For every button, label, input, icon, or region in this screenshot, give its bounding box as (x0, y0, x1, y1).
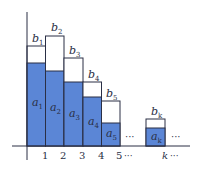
x-tick-ellipsis-1: ··· (124, 151, 133, 161)
x-tick-4: 4 (98, 150, 104, 161)
bar-3 (64, 58, 83, 146)
x-tick-3: 3 (79, 150, 85, 161)
x-tick-5: 5 (116, 150, 122, 161)
x-tick-1: 1 (42, 150, 48, 161)
x-tick-ellipsis-2: ··· (170, 151, 179, 161)
x-tick-k: k (162, 150, 168, 161)
x-tick-2: 2 (60, 150, 66, 161)
b-label-2: b2 (51, 21, 63, 36)
comparison-diagram: b1 b2 b3 b4 b5 bk a1 a2 a3 a4 a5 ak ··· … (0, 0, 198, 170)
b-label-3: b3 (69, 44, 81, 59)
b-label-5: b5 (106, 87, 118, 102)
ellipsis-plot-2: ··· (171, 131, 181, 142)
b-label-4: b4 (88, 68, 100, 83)
bar-4 (83, 82, 102, 146)
bar-2 (46, 36, 65, 146)
b-label-1: b1 (32, 32, 44, 47)
ellipsis-plot-1: ··· (125, 131, 135, 142)
b-label-k: bk (151, 105, 163, 120)
